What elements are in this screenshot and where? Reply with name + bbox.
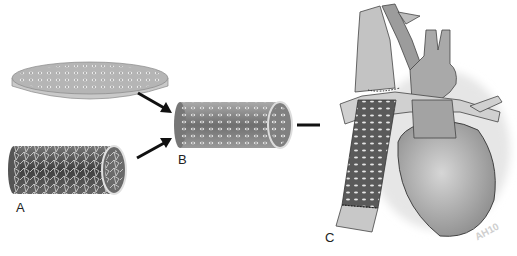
culture-dish <box>12 62 168 99</box>
panel-label-c: C <box>325 230 334 245</box>
panel-label-a: A <box>16 200 25 215</box>
porous-scaffold-tube <box>8 146 126 194</box>
seeded-graft-tube <box>174 102 292 148</box>
tissue-engineering-figure: A B C AH10 <box>0 0 517 256</box>
arrow-scaffold-to-graft <box>137 138 172 158</box>
heart-with-graft <box>336 4 510 236</box>
arrow-dish-to-graft <box>138 93 172 113</box>
figure-illustration <box>0 0 517 256</box>
panel-label-b: B <box>178 152 187 167</box>
